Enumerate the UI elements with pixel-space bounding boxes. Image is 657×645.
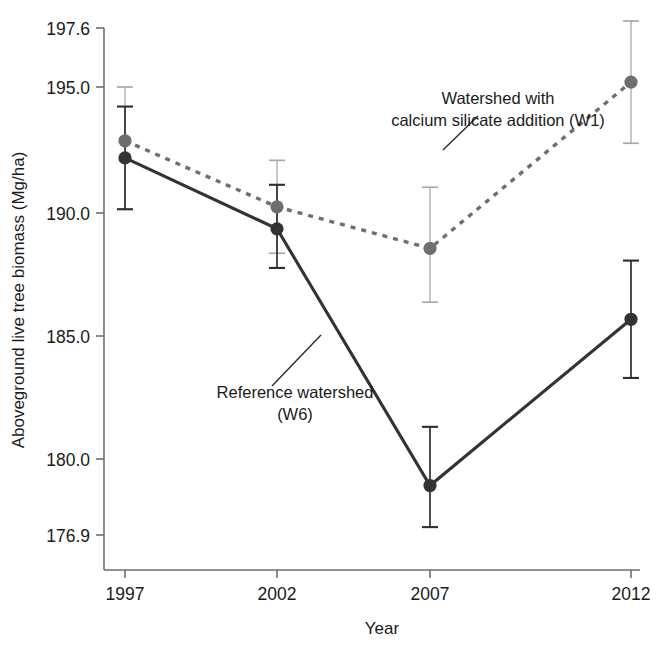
x-axis-title: Year xyxy=(365,619,400,638)
x-tick-label-0: 1997 xyxy=(106,584,145,604)
series-w1 xyxy=(118,76,637,255)
y-tick-label-5: 176.9 xyxy=(46,526,90,546)
errorbars-w6 xyxy=(117,107,639,528)
y-tick-label-2: 190.0 xyxy=(46,204,90,224)
y-axis-title: Aboveground live tree biomass (Mg/ha) xyxy=(9,152,28,449)
x-tick-label-3: 2012 xyxy=(612,584,651,604)
biomass-line-chart: Aboveground live tree biomass (Mg/ha) 19… xyxy=(0,0,657,645)
series-w6 xyxy=(118,151,637,492)
errorbars-w1 xyxy=(117,21,639,302)
y-axis-ticks xyxy=(96,28,104,535)
w6-annotation-line-1: Reference watershed xyxy=(217,383,374,401)
y-tick-label-1: 195.0 xyxy=(46,78,90,98)
data-point-w1-2007[interactable] xyxy=(423,242,436,255)
y-tick-label-3: 185.0 xyxy=(46,327,90,347)
w1-annotation: Watershed with calcium silicate addition… xyxy=(391,89,605,129)
x-tick-label-1: 2002 xyxy=(258,584,297,604)
x-axis-tick-labels: 1997 2002 2007 2012 xyxy=(106,584,651,604)
annotation-leaders xyxy=(272,116,478,386)
series-line-w1 xyxy=(125,82,631,248)
y-tick-label-0: 197.6 xyxy=(46,19,90,39)
w6-annotation: Reference watershed (W6) xyxy=(217,383,374,423)
data-point-w6-2002[interactable] xyxy=(270,222,283,235)
data-point-w6-1997[interactable] xyxy=(118,151,131,164)
y-tick-label-4: 180.0 xyxy=(46,450,90,470)
data-point-w1-2012[interactable] xyxy=(624,76,637,89)
w6-leader-line xyxy=(272,335,321,386)
w6-annotation-line-2: (W6) xyxy=(277,405,313,423)
data-point-w1-1997[interactable] xyxy=(118,134,131,147)
w1-annotation-line-2: calcium silicate addition (W1) xyxy=(391,111,605,129)
x-tick-label-2: 2007 xyxy=(411,584,450,604)
series-layer xyxy=(117,21,639,527)
y-axis-tick-labels: 197.6 195.0 190.0 185.0 180.0 176.9 xyxy=(46,19,90,546)
chart-container: Aboveground live tree biomass (Mg/ha) 19… xyxy=(0,0,657,645)
w1-annotation-line-1: Watershed with xyxy=(441,89,554,107)
series-line-w6 xyxy=(125,158,631,486)
x-axis-ticks xyxy=(125,570,631,578)
data-point-w1-2002[interactable] xyxy=(270,200,283,213)
data-point-w6-2012[interactable] xyxy=(624,313,637,326)
data-point-w6-2007[interactable] xyxy=(423,479,436,492)
